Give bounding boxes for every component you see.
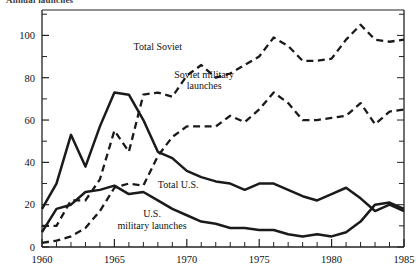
y-tick-label: 0 [30, 242, 35, 253]
x-tick-label: 1980 [321, 254, 342, 265]
x-tick-label: 1975 [249, 254, 270, 265]
annual-launches-chart: Annual launches 020406080100196019651970… [0, 0, 419, 269]
x-tick-label: 1970 [176, 254, 197, 265]
series-label-soviet-military: launches [187, 80, 222, 91]
y-tick-label: 20 [25, 199, 36, 210]
series-label-soviet-military: Soviet military [174, 69, 234, 80]
plot-area: 020406080100196019651970197519801985Tota… [0, 0, 419, 269]
series-label-total-soviet: Total Soviet [134, 41, 183, 52]
series-label-total-us: Total U.S. [158, 179, 199, 190]
y-tick-label: 100 [19, 30, 35, 41]
series-line-total-u-s [42, 93, 404, 212]
y-tick-label: 80 [25, 73, 36, 84]
y-tick-label: 60 [25, 115, 36, 126]
x-tick-label: 1965 [104, 254, 125, 265]
series-label-us-military: military launches [117, 220, 186, 231]
series-line-soviet-military-launches [42, 93, 404, 243]
y-tick-label: 40 [25, 157, 36, 168]
series-line-total-soviet [42, 25, 404, 226]
series-label-us-military: U.S. [143, 208, 161, 219]
series-line-u-s-military-launches [42, 186, 404, 237]
x-tick-label: 1960 [32, 254, 53, 265]
x-tick-label: 1985 [394, 254, 415, 265]
